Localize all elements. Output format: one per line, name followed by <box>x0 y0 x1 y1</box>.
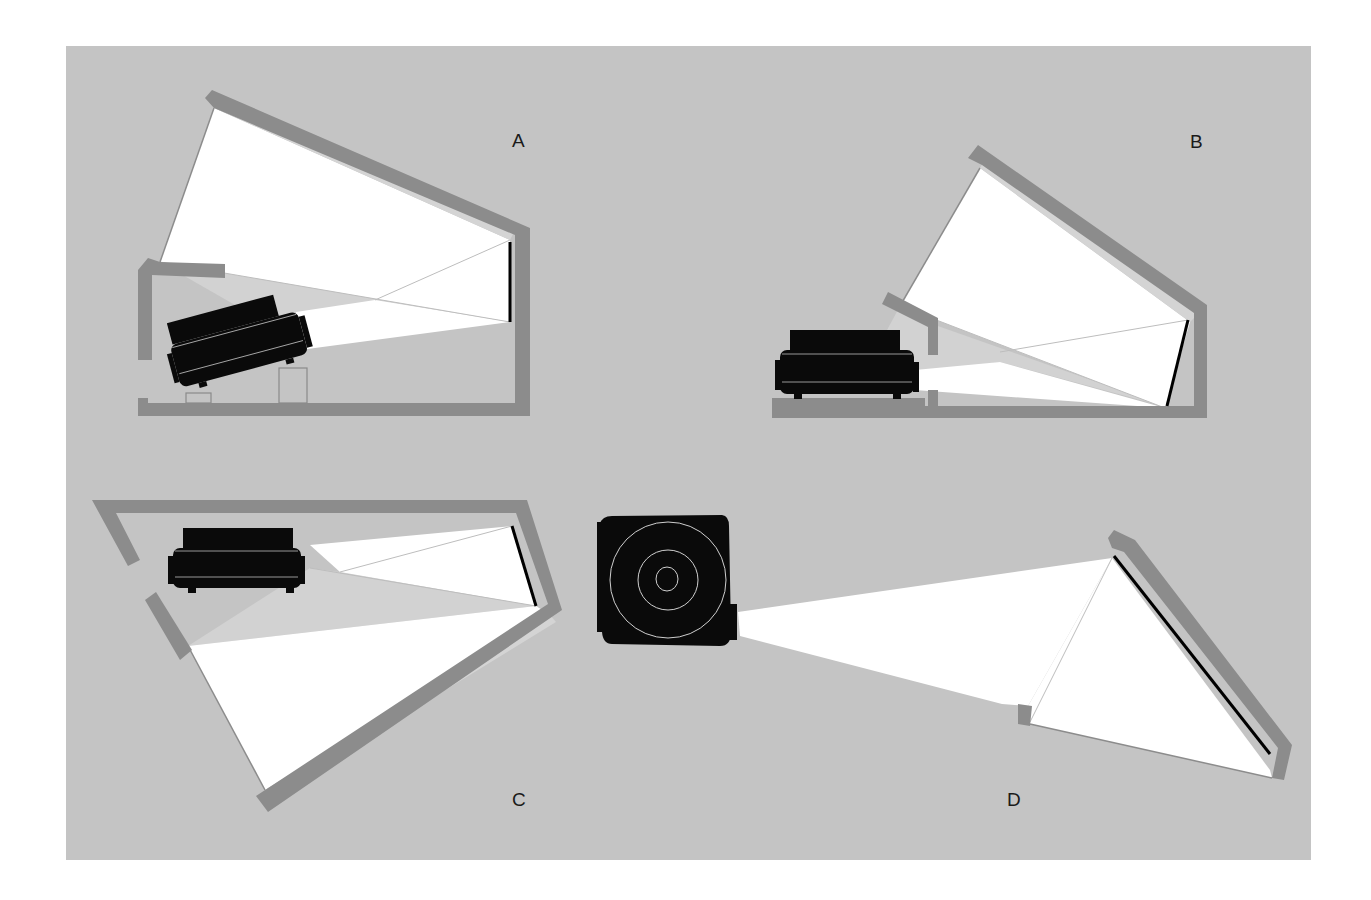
label-d: D <box>1007 789 1021 810</box>
projection-diagram: A B <box>0 0 1371 900</box>
label-b: B <box>1190 131 1203 152</box>
projector-c <box>168 528 305 593</box>
label-c: C <box>512 789 526 810</box>
configuration-a: A <box>138 90 530 416</box>
configuration-d: D <box>597 515 1292 810</box>
projector-b <box>775 330 919 399</box>
configuration-b: B <box>772 131 1207 418</box>
configuration-c: C <box>92 500 562 812</box>
label-a: A <box>512 130 525 151</box>
projector-d-front-view <box>597 515 737 646</box>
